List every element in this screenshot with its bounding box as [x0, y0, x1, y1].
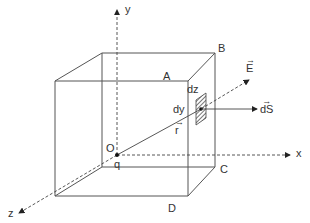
y-axis-label: y	[125, 4, 131, 15]
origin-label: O	[106, 143, 115, 154]
vector-arrow-icon: →	[175, 118, 179, 127]
dy-label: dy	[173, 104, 185, 115]
vector-arrow-icon: →	[260, 97, 273, 106]
cube-depth-edges	[55, 53, 215, 196]
e-vector-label: → E	[246, 63, 253, 74]
e-field-vector	[201, 80, 249, 109]
z-axis	[19, 155, 117, 213]
vertex-a-label: A	[163, 71, 170, 82]
dz-label: dz	[187, 84, 199, 95]
origin-charge-dot	[115, 153, 119, 157]
charge-label: q	[114, 159, 120, 170]
cube-front-face	[55, 81, 188, 196]
z-axis-label: z	[8, 208, 14, 219]
ds-vector-label: → dS	[260, 104, 273, 115]
vertex-d-label: D	[168, 203, 176, 214]
vertex-c-label: C	[220, 164, 228, 175]
x-axis-label: x	[296, 148, 302, 159]
r-vector-label: → r	[175, 125, 179, 136]
vertex-b-label: B	[218, 43, 225, 54]
vector-arrow-icon: →	[246, 56, 253, 65]
